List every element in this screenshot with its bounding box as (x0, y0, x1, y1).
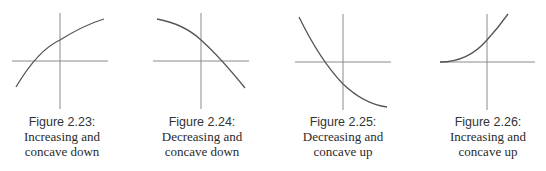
figure-2-24-caption: Figure 2.24: Decreasing and concave down (137, 115, 267, 159)
curve-increasing-concave-up (440, 14, 508, 62)
figure-2-25-caption: Figure 2.25: Decreasing and concave up (278, 115, 408, 159)
figure-2-26-plot (440, 14, 535, 110)
figure-label: Figure 2.26: (423, 115, 546, 129)
caption-line-1: Decreasing and (278, 129, 408, 144)
figure-2-25-plot (295, 14, 391, 110)
figure-label: Figure 2.24: (137, 115, 267, 129)
figure-2-26-caption: Figure 2.26: Increasing and concave up (423, 115, 546, 159)
caption-line-2: concave up (278, 144, 408, 159)
figure-2-23-caption: Figure 2.23: Increasing and concave down (0, 115, 127, 159)
figure-label: Figure 2.23: (0, 115, 127, 129)
caption-line-1: Decreasing and (137, 129, 267, 144)
figure-2-24-plot (153, 13, 249, 109)
caption-line-2: concave up (423, 144, 546, 159)
caption-line-1: Increasing and (423, 129, 546, 144)
caption-line-2: concave down (137, 144, 267, 159)
caption-line-2: concave down (0, 144, 127, 159)
figure-2-23-plot (12, 13, 108, 109)
figure-label: Figure 2.25: (278, 115, 408, 129)
caption-line-1: Increasing and (0, 129, 127, 144)
